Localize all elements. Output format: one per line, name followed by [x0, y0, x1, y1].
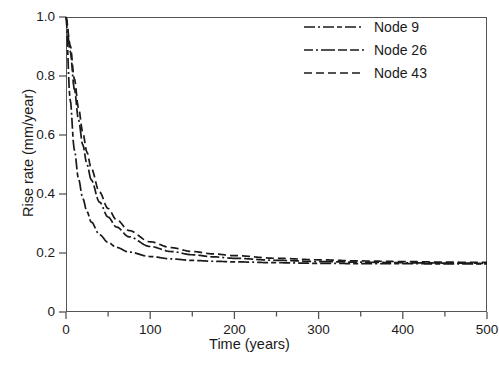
- x-tick-label: 200: [223, 323, 246, 337]
- y-tick-label: 0: [8, 305, 55, 319]
- legend: Node 9 Node 26 Node 43: [303, 19, 427, 81]
- x-tick-label: 300: [307, 323, 330, 337]
- legend-item-node-26: Node 26: [303, 42, 427, 58]
- legend-line-sample-node-43: [303, 68, 365, 78]
- y-tick-label: 1.0: [8, 10, 55, 24]
- x-tick-label: 100: [139, 323, 162, 337]
- x-tick-label: 500: [476, 323, 499, 337]
- x-axis-title: Time (years): [0, 336, 499, 352]
- x-tick-label: 0: [62, 323, 70, 337]
- legend-label-node-43: Node 43: [374, 66, 427, 80]
- legend-line-sample-node-9: [303, 22, 365, 32]
- x-tick-label: 400: [392, 323, 415, 337]
- legend-line-sample-node-26: [303, 45, 365, 55]
- legend-item-node-9: Node 9: [303, 19, 427, 35]
- legend-label-node-26: Node 26: [374, 43, 427, 57]
- legend-item-node-43: Node 43: [303, 65, 427, 81]
- y-axis-title: Rise rate (mm/year): [20, 89, 36, 217]
- legend-label-node-9: Node 9: [374, 20, 419, 34]
- y-axis-title-wrapper: Rise rate (mm/year): [19, 33, 37, 273]
- figure: 0100200300400500 00.20.40.60.81.0 Time (…: [0, 0, 499, 373]
